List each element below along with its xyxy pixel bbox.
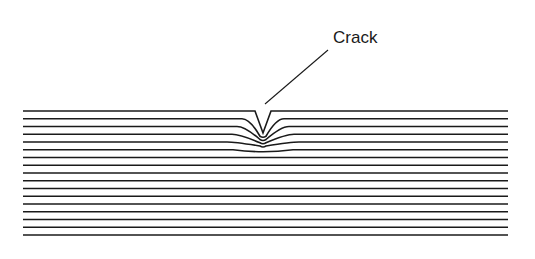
crack-leader-line [265, 50, 328, 104]
layer-line [23, 111, 508, 133]
layer-line [23, 150, 508, 152]
crack-label: Crack [333, 28, 377, 48]
layered-crack-diagram [0, 0, 535, 259]
material-layers [23, 111, 508, 235]
